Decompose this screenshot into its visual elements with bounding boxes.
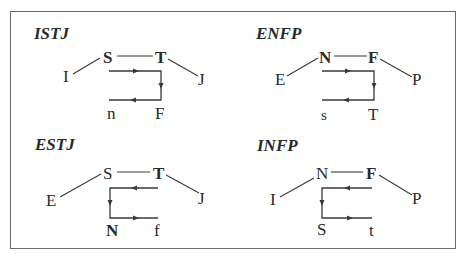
- edge-attitude: [280, 178, 314, 197]
- arrowhead-right-icon: [133, 69, 139, 74]
- arrowhead-left-icon: [343, 98, 349, 103]
- arrowhead-down-icon: [320, 200, 325, 206]
- edge-lifestyle: [380, 59, 412, 77]
- node-lifestyle: J: [198, 70, 205, 89]
- flow-arrow: [110, 188, 158, 218]
- edge-lifestyle: [379, 175, 412, 195]
- panel-enfp: ENFP E N F P s T: [255, 24, 421, 124]
- arrowhead-right-icon: [347, 216, 353, 221]
- node-auxiliary: F: [368, 48, 378, 67]
- node-lifestyle: P: [412, 70, 421, 89]
- panel-title: ISTJ: [33, 24, 69, 43]
- node-lifestyle: P: [412, 189, 421, 208]
- arrowhead-down-icon: [159, 83, 164, 89]
- node-tertiary: T: [368, 105, 379, 124]
- node-attitude: I: [270, 190, 276, 209]
- node-auxiliary: N: [316, 164, 328, 183]
- node-dominant: F: [366, 164, 376, 183]
- panel-title: INFP: [256, 136, 298, 155]
- panel-title: ESTJ: [34, 135, 75, 154]
- node-attitude: E: [46, 191, 56, 210]
- node-tertiary: F: [155, 104, 164, 123]
- panel-istj: ISTJ I S T J n F: [33, 24, 205, 123]
- arrowhead-right-icon: [345, 69, 351, 74]
- edge-attitude: [60, 174, 101, 197]
- arrowhead-left-icon: [344, 186, 350, 191]
- edge-lifestyle: [166, 175, 199, 193]
- node-auxiliary: T: [155, 48, 167, 67]
- node-inferior: n: [107, 104, 116, 123]
- node-attitude: I: [63, 67, 69, 86]
- node-dominant: T: [153, 164, 165, 183]
- type-dynamics-diagram: ISTJ I S T J n F ENFP E N F P s T ESTJ: [0, 0, 469, 254]
- node-dominant: S: [103, 48, 112, 67]
- node-dominant: N: [319, 48, 332, 67]
- panel-estj: ESTJ E S T J N f: [34, 135, 205, 240]
- node-lifestyle: J: [198, 189, 205, 208]
- edge-attitude: [73, 58, 100, 74]
- node-attitude: E: [275, 70, 285, 89]
- arrowhead-left-icon: [131, 186, 137, 191]
- panel-title: ENFP: [255, 24, 302, 43]
- arrowhead-left-icon: [130, 98, 136, 103]
- flow-arrow: [109, 71, 161, 100]
- flow-arrow: [322, 71, 374, 100]
- arrowhead-down-icon: [372, 83, 377, 89]
- flow-arrow: [322, 188, 372, 218]
- node-auxiliary: S: [103, 164, 112, 183]
- arrowhead-down-icon: [108, 200, 113, 206]
- panel-infp: INFP I N F P S t: [256, 136, 421, 240]
- node-tertiary: N: [106, 221, 119, 240]
- node-inferior: s: [321, 107, 327, 123]
- arrowhead-right-icon: [133, 216, 139, 221]
- node-inferior: f: [154, 221, 160, 240]
- edge-lifestyle: [168, 59, 198, 76]
- node-tertiary: S: [317, 220, 326, 239]
- node-inferior: t: [369, 221, 374, 240]
- edge-attitude: [287, 58, 318, 76]
